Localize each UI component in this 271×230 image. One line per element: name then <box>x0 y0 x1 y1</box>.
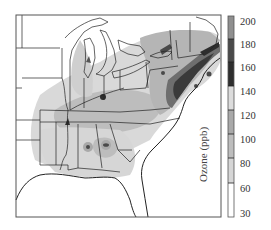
colorbar-tick-120: 120 <box>240 110 256 121</box>
colorbar-tick-60: 60 <box>240 183 251 194</box>
colorbar-tick-30: 30 <box>240 208 251 219</box>
colorbar-tick-80: 80 <box>240 158 251 169</box>
colorbar-tick-200: 200 <box>240 16 256 27</box>
colorbar-tick-140: 140 <box>240 86 256 97</box>
colorbar <box>228 16 234 217</box>
colorbar-tick-160: 160 <box>240 62 256 73</box>
ozone-map <box>0 0 271 230</box>
colorbar-tick-180: 180 <box>240 39 256 50</box>
colorbar-label: Ozone (ppb) <box>197 127 209 182</box>
colorbar-tick-100: 100 <box>240 134 256 145</box>
ozone-shading <box>31 30 221 178</box>
